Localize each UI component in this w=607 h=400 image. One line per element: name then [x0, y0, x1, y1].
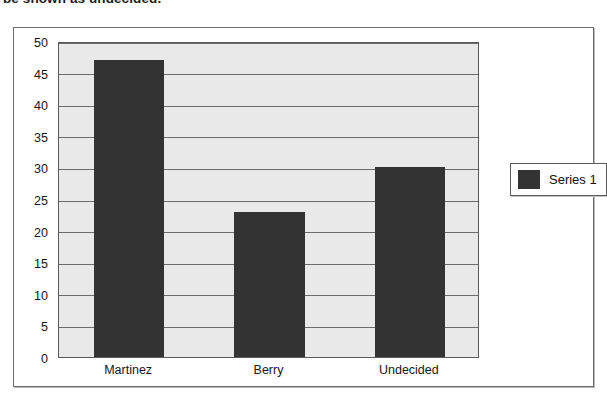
gridline — [59, 43, 478, 44]
y-axis-tick-label: 40 — [34, 99, 48, 113]
y-axis-tick-label: 15 — [34, 257, 48, 271]
bar[interactable] — [234, 212, 304, 357]
x-axis-tick-label: Martinez — [104, 363, 152, 377]
x-axis-tick-label: Undecided — [379, 363, 439, 377]
clipped-caption-text: be shown as undecided. — [3, 0, 161, 6]
y-axis-tick-label: 50 — [34, 36, 48, 50]
x-axis-tick-label: Berry — [254, 363, 284, 377]
y-axis-tick-label: 25 — [34, 194, 48, 208]
y-axis-tick-label: 0 — [41, 352, 48, 366]
y-axis-tick-label: 30 — [34, 162, 48, 176]
y-axis-tick-labels: 05101520253035404550 — [14, 42, 54, 358]
y-axis-tick-label: 35 — [34, 131, 48, 145]
legend-color-swatch-icon — [518, 170, 540, 189]
legend-series-label: Series 1 — [549, 172, 597, 187]
y-axis-tick-label: 10 — [34, 289, 48, 303]
plot-area[interactable] — [58, 42, 479, 358]
chart-object-frame[interactable]: 05101520253035404550 MartinezBerryUndeci… — [13, 27, 594, 387]
chart-legend[interactable]: Series 1 — [510, 163, 607, 196]
y-axis-tick-label: 45 — [34, 68, 48, 82]
y-axis-tick-label: 5 — [41, 320, 48, 334]
y-axis-tick-label: 20 — [34, 226, 48, 240]
bar[interactable] — [375, 167, 445, 357]
bar[interactable] — [94, 60, 164, 357]
plot-inner — [59, 43, 478, 357]
x-axis-category-labels: MartinezBerryUndecided — [58, 360, 479, 382]
